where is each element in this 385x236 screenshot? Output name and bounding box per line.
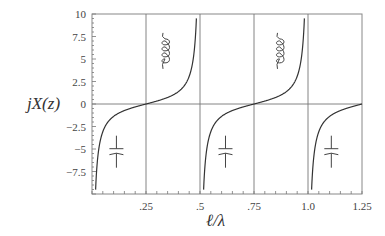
- y-tick-labels: 107.552.50−2.5−5−7.5: [66, 8, 86, 178]
- capacitor-icon: [324, 136, 338, 168]
- reactance-chart: .25.5.751.01.25 107.552.50−2.5−5−7.5 jX(…: [0, 0, 385, 236]
- x-tick-label: 1.0: [301, 200, 315, 212]
- y-tick-label: 0: [81, 98, 87, 110]
- reactance-curve: [96, 18, 362, 194]
- curve-branch: [312, 104, 362, 190]
- x-tick-label: .25: [139, 200, 153, 212]
- x-tick-label: .75: [247, 200, 261, 212]
- y-tick-label: 2.5: [72, 76, 86, 88]
- x-tick-label: 1.25: [352, 200, 372, 212]
- y-tick-label: 7.5: [72, 31, 86, 43]
- y-tick-label: −2.5: [66, 121, 86, 133]
- capacitor-icon: [109, 136, 123, 168]
- gridlines: [92, 14, 362, 194]
- y-axis-label: jX(z): [25, 94, 60, 113]
- x-tick-labels: .25.5.751.01.25: [139, 200, 372, 212]
- inductor-icon: [276, 33, 284, 69]
- y-tick-label: 5: [81, 53, 87, 65]
- component-symbols: [109, 33, 338, 168]
- y-tick-label: −7.5: [66, 166, 86, 178]
- y-tick-label: −5: [74, 143, 86, 155]
- capacitor-icon: [218, 136, 232, 168]
- y-tick-label: 10: [75, 8, 87, 20]
- x-axis-label: ℓ/λ: [206, 211, 225, 230]
- x-tick-label: .5: [196, 200, 205, 212]
- inductor-icon: [162, 33, 170, 69]
